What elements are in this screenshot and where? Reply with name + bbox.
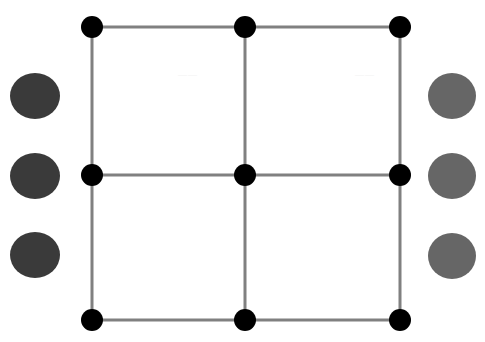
node-middle-center [234, 164, 256, 186]
node-middle-right [389, 164, 411, 186]
node-top-left [81, 16, 103, 38]
right-circle-1 [428, 73, 476, 119]
node-middle-left [81, 164, 103, 186]
figure-canvas: ———— [0, 0, 485, 342]
grid-diagram [0, 0, 485, 342]
right-circle-3 [428, 233, 476, 279]
node-top-right [389, 16, 411, 38]
left-circle-layer [10, 73, 60, 278]
right-circle-2 [428, 153, 476, 199]
left-circle-1 [10, 73, 60, 119]
node-bottom-left [81, 309, 103, 331]
node-bottom-center [234, 309, 256, 331]
right-circle-layer [428, 73, 476, 279]
left-circle-3 [10, 232, 60, 278]
left-circle-2 [10, 153, 60, 199]
node-bottom-right [389, 309, 411, 331]
node-top-center [234, 16, 256, 38]
